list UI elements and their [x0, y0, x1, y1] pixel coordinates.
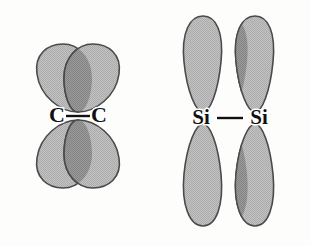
carbon-orbital-group: C C: [37, 44, 120, 188]
orbital-diagram-svg: C C Si Si: [0, 0, 311, 246]
silicon-orbital-group: Si Si: [183, 16, 273, 226]
silicon-lobe-top-left: [183, 16, 221, 112]
silicon-label-left: Si: [192, 105, 210, 129]
carbon-label-right: C: [91, 102, 107, 127]
silicon-label-right: Si: [250, 105, 268, 129]
orbital-overlap-figure: C C Si Si: [0, 0, 311, 246]
carbon-label-left: C: [49, 102, 65, 127]
silicon-lobe-bottom-left: [183, 124, 221, 226]
